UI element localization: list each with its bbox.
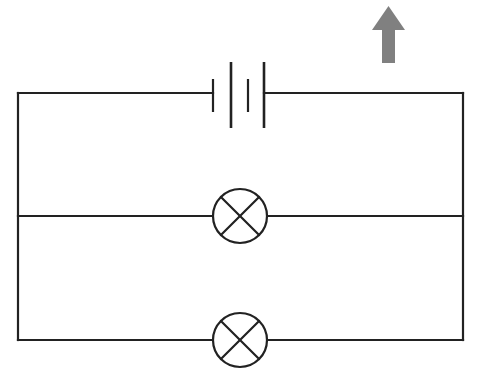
circuit-diagram-canvas	[0, 0, 485, 388]
up-arrow-icon	[372, 6, 405, 63]
lamp-upper	[213, 189, 267, 243]
battery-two-cell	[213, 62, 264, 128]
circuit-schematic	[0, 0, 485, 388]
lamp-lower	[213, 313, 267, 367]
